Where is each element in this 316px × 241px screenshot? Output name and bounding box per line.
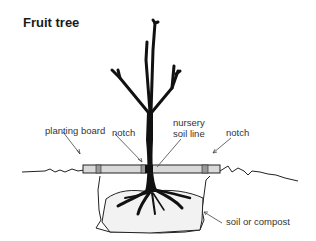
arrow-soil xyxy=(204,212,222,223)
notch-right-shape xyxy=(202,165,208,173)
arrow-notch-left xyxy=(115,134,142,162)
label-notch-right: notch xyxy=(226,127,249,138)
tree-trunk xyxy=(145,112,158,192)
ground-line-right xyxy=(220,166,298,181)
label-notch-left: notch xyxy=(112,127,135,138)
notch-left-shape xyxy=(96,165,101,173)
arrow-nursery-line xyxy=(157,139,181,167)
tree-planting-diagram xyxy=(0,0,316,241)
label-nursery-line1: nursery xyxy=(173,117,205,128)
label-nursery-line2: soil line xyxy=(173,128,205,139)
label-nursery-soil-line: nursery soil line xyxy=(173,117,205,139)
label-planting-board: planting board xyxy=(45,125,105,136)
arrow-notch-right xyxy=(213,138,231,153)
ground-line-left xyxy=(22,169,84,172)
tree-branches xyxy=(112,20,180,112)
label-soil-or-compost: soil or compost xyxy=(226,216,290,227)
